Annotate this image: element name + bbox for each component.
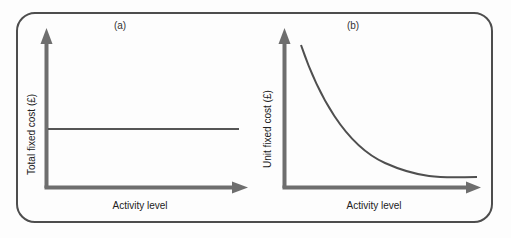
panel-b-y-axis-arrowhead-icon (279, 28, 291, 44)
panel-b-y-axis-label: Unit fixed cost (£) (262, 90, 273, 168)
panel-b-chart (279, 28, 482, 194)
panel-a-y-axis-label: Total fixed cost (£) (26, 94, 37, 175)
cost-behaviour-diagram (0, 0, 511, 238)
figure-canvas: (a) Total fixed cost (£) Activity level … (0, 0, 511, 238)
panel-a-x-axis-arrowhead-icon (232, 182, 248, 194)
panel-b-title: (b) (347, 20, 359, 31)
panel-b-x-axis-arrowhead-icon (466, 182, 481, 194)
panel-b-x-axis-label: Activity level (346, 200, 401, 211)
panel-a-x-axis-label: Activity level (112, 200, 167, 211)
panel-a-y-axis-arrowhead-icon (41, 28, 53, 44)
figure-frame (17, 13, 492, 222)
panel-a-chart (41, 28, 249, 194)
panel-b-unit-fixed-cost-curve (301, 45, 477, 177)
panel-a-title: (a) (114, 20, 126, 31)
